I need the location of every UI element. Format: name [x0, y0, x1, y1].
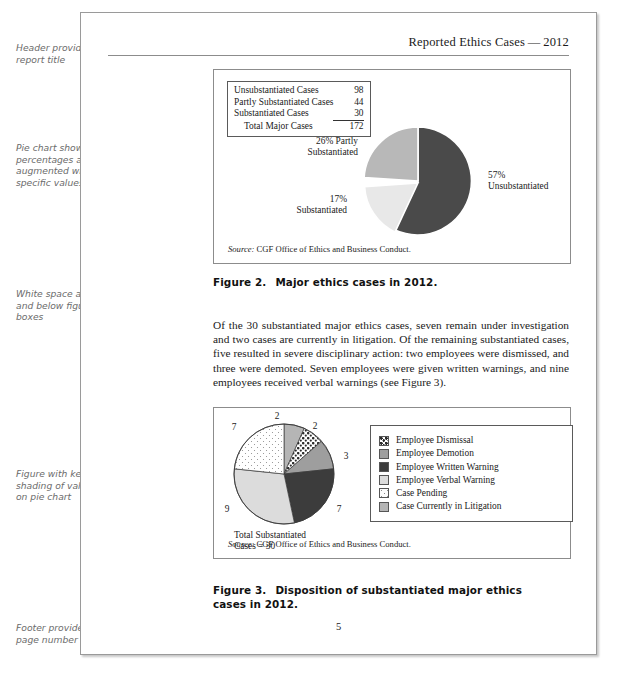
legend-label: Case Pending — [396, 488, 447, 499]
table-cell-label: Partly Substantiated Cases — [234, 97, 333, 109]
legend-label: Employee Dismissal — [396, 435, 473, 446]
legend-label: Employee Written Warning — [396, 462, 499, 473]
figure-2-label-partly-substantiated: 26% Partly Substantiated — [254, 136, 358, 159]
running-header-title: Reported Ethics Cases — 2012 — [408, 35, 569, 50]
pie-3-value-dismissal: 2 — [309, 421, 321, 432]
table-row: Substantiated Cases 30 — [234, 108, 364, 120]
pie-3-value-pending: 7 — [228, 422, 240, 433]
figure-3-source-prefix: Source: — [228, 539, 254, 549]
table-cell-label: Substantiated Cases — [234, 108, 333, 120]
legend-label: Employee Verbal Warning — [396, 475, 495, 486]
pie-3-svg — [232, 422, 336, 526]
figure-2-caption-number: Figure 2. — [213, 276, 266, 288]
legend-label: Case Currently in Litigation — [396, 501, 501, 512]
legend-swatch-gray-icon — [379, 449, 389, 459]
legend-item-employee-dismissal: Employee Dismissal — [379, 435, 563, 446]
table-cell-label: Unsubstantiated Cases — [234, 85, 333, 97]
legend-swatch-dots-icon — [379, 488, 389, 498]
legend-item-case-pending: Case Pending — [379, 488, 563, 499]
pie-3-slice-case-pending — [234, 424, 284, 474]
figure-3-pie-chart — [232, 422, 336, 526]
figure-3-caption: Figure 3.Disposition of substantiated ma… — [213, 569, 573, 611]
legend-item-employee-demotion: Employee Demotion — [379, 448, 563, 459]
legend-item-case-currently-in-litigation: Case Currently in Litigation — [379, 501, 563, 512]
legend-swatch-speckle-icon — [379, 436, 389, 446]
figure-3-box: 2 2 3 7 9 7 Total Substantiated Cases = … — [213, 407, 571, 559]
figure-3-source: Source: CGF Office of Ethics and Busines… — [228, 539, 411, 549]
document-page: Reported Ethics Cases — 2012 Unsubstanti… — [80, 12, 597, 655]
figure-2-box: Unsubstantiated Cases 98 Partly Substant… — [213, 69, 571, 264]
figure-2-source: Source: CGF Office of Ethics and Busines… — [228, 244, 411, 254]
table-row: Unsubstantiated Cases 98 — [234, 85, 364, 97]
table-row-total: Total Major Cases 172 — [234, 120, 364, 132]
header-rule — [108, 55, 569, 56]
table-cell-total-label: Total Major Cases — [234, 120, 333, 132]
pie-2-slice-partly-substantiated — [364, 127, 418, 181]
figure-3-caption-number: Figure 3. — [213, 584, 266, 596]
figure-2-label-unsubstantiated: 57% Unsubstantiated — [488, 170, 548, 193]
pie-3-value-litigation: 2 — [271, 411, 283, 422]
legend-swatch-light-icon — [379, 475, 389, 485]
table-cell-value: 30 — [333, 108, 363, 120]
figure-2-source-text: CGF Office of Ethics and Business Conduc… — [257, 244, 411, 254]
figure-2-label-substantiated: 17% Substantiated — [254, 194, 347, 217]
body-paragraph: Of the 30 substantiated major ethics cas… — [213, 318, 569, 389]
pie-3-value-verbal: 9 — [221, 504, 233, 515]
page-folio: 5 — [81, 621, 596, 632]
table-cell-value: 44 — [333, 97, 363, 109]
figure-2-caption: Figure 2.Major ethics cases in 2012. — [213, 275, 573, 289]
figure-2-caption-text: Major ethics cases in 2012. — [275, 276, 437, 288]
pie-3-value-demotion: 3 — [340, 451, 352, 462]
figure-3-legend: Employee Dismissal Employee Demotion Emp… — [370, 425, 573, 522]
legend-item-employee-written-warning: Employee Written Warning — [379, 462, 563, 473]
figure-3-source-text: CGF Office of Ethics and Business Conduc… — [257, 539, 411, 549]
legend-swatch-dark-icon — [379, 462, 389, 472]
table-cell-value: 98 — [333, 85, 363, 97]
figure-2-pie-chart — [362, 126, 472, 236]
legend-swatch-medium-icon — [379, 502, 389, 512]
figure-2-data-table: Unsubstantiated Cases 98 Partly Substant… — [227, 81, 371, 137]
figure-2-source-prefix: Source: — [228, 244, 254, 254]
pie-3-value-written: 7 — [333, 504, 345, 515]
table-row: Partly Substantiated Cases 44 — [234, 97, 364, 109]
legend-item-employee-verbal-warning: Employee Verbal Warning — [379, 475, 563, 486]
pie-2-svg — [362, 126, 480, 240]
legend-label: Employee Demotion — [396, 448, 474, 459]
table-cell-total-value: 172 — [333, 120, 363, 132]
